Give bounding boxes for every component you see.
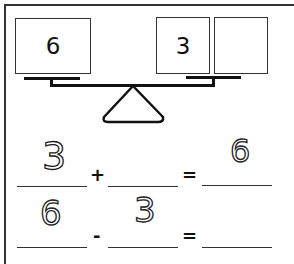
right-pan-box-1: 3 — [156, 17, 210, 74]
eq1-result-line[interactable] — [202, 185, 272, 186]
left-pan-value: 6 — [46, 33, 61, 59]
fulcrum-icon — [100, 84, 166, 124]
eq2-op: - — [93, 227, 100, 245]
eq2-result-line[interactable] — [202, 247, 272, 248]
right-pan-value-1: 3 — [176, 33, 191, 59]
eq1-result: 6 — [230, 135, 250, 167]
eq2-a-line[interactable] — [17, 247, 87, 248]
right-pan-box-2[interactable] — [214, 17, 268, 74]
eq1-eq: = — [182, 166, 197, 184]
eq1-op: + — [90, 166, 105, 184]
eq1-b-line[interactable] — [108, 186, 178, 187]
eq2-eq: = — [182, 227, 197, 245]
eq2-a: 6 — [40, 196, 62, 230]
eq1-a: 3 — [42, 137, 66, 175]
left-pan-box: 6 — [15, 18, 91, 74]
eq2-b-line[interactable] — [108, 247, 178, 248]
eq1-a-line[interactable] — [17, 186, 87, 187]
eq2-b: 3 — [134, 193, 156, 227]
